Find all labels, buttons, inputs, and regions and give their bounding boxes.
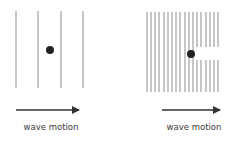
- particle-dot: [187, 50, 195, 58]
- particle-dot: [46, 46, 54, 54]
- wave-motion-label: wave motion: [167, 122, 222, 132]
- wave-diagram: wave motion wave motion: [0, 0, 243, 141]
- panel-short-wavelength: wave motion: [147, 12, 221, 132]
- wave-motion-label: wave motion: [24, 122, 79, 132]
- panel-long-wavelength: wave motion: [16, 11, 83, 132]
- wavefront-lines: [147, 12, 218, 92]
